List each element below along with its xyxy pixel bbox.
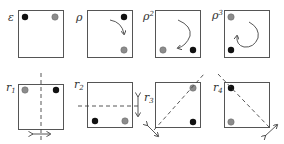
flip-arrow-icon: [147, 125, 158, 136]
panel-r1: r1: [6, 73, 64, 140]
gray-dot: [122, 118, 128, 124]
label-rho: ρ: [75, 11, 83, 24]
label-r2: r2: [74, 78, 84, 92]
gray-dot: [228, 119, 234, 125]
symmetry-diagram: ε ρ ρ2 ρ3 r1 r2: [0, 0, 284, 144]
panel-identity: ε: [8, 11, 64, 58]
rotation-arrow-icon: [178, 20, 190, 48]
black-dot: [190, 47, 196, 53]
panel-r4: r4: [213, 74, 277, 136]
black-dot: [228, 47, 234, 53]
black-dot: [22, 14, 28, 20]
label-epsilon: ε: [8, 11, 14, 24]
gray-dot: [160, 47, 166, 53]
label-r3: r3: [144, 91, 154, 105]
label-rho-squared: ρ2: [142, 10, 154, 23]
gray-dot: [121, 47, 127, 53]
panel-r3: r3: [144, 74, 204, 136]
label-r1: r1: [6, 81, 16, 95]
panel-rho-cubed: ρ3: [211, 9, 270, 58]
panel-rho: ρ: [75, 11, 133, 58]
black-dot: [92, 118, 98, 124]
gray-dot: [22, 87, 28, 93]
flip-arrow-icon: [265, 125, 277, 136]
gray-dot: [52, 14, 58, 20]
rotation-arrow-icon: [237, 22, 258, 47]
black-dot: [53, 87, 59, 93]
gray-dot: [228, 14, 234, 20]
black-dot: [121, 14, 127, 20]
label-r4: r4: [213, 81, 223, 95]
black-dot: [190, 119, 196, 125]
label-rho-cubed: ρ3: [211, 9, 223, 22]
panel-r2: r2: [74, 78, 140, 128]
rotation-arrow-icon: [110, 20, 124, 34]
panel-rho-squared: ρ2: [142, 10, 201, 58]
